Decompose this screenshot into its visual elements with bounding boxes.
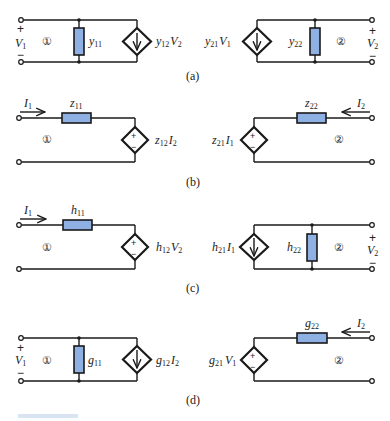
- h21I1-source-label: h21I1: [212, 240, 235, 255]
- z21I1-source-label: z21I1: [211, 133, 234, 148]
- h11-impedance-resistor: [63, 220, 92, 230]
- terminal-node: [17, 223, 22, 228]
- port2-minus-sign: −: [369, 256, 376, 270]
- z22-label: z22: [304, 96, 318, 111]
- y12V2-source-label: y12V2: [155, 34, 182, 49]
- terminal-node: [17, 160, 22, 165]
- panel-b-z-parameters: I1 z11 ① + − z12I2 I2 z22 + − z21I1: [17, 96, 375, 189]
- panel-c-port2-circuit: h21I1 h22 ② + V2 −: [212, 223, 378, 272]
- port2-number-label: ②: [334, 241, 344, 253]
- panel-c-h-parameters: I1 h11 ① + − h12V2 h21I1 h22 ②: [17, 203, 379, 295]
- source-plus-sign: +: [131, 131, 136, 141]
- source-plus-sign: +: [250, 131, 255, 141]
- panel-a-port2-circuit: y21V1 y22 ② + V2 −: [204, 18, 378, 65]
- port1-minus-sign: −: [17, 48, 24, 62]
- source-minus-sign: −: [250, 362, 255, 372]
- panel-d-g-parameters: + V1 − ① g11 g12I2 I2 g22: [15, 316, 374, 407]
- terminal-node: [370, 160, 375, 165]
- g22-impedance-resistor: [297, 333, 327, 343]
- two-port-equivalent-circuits: + V1 − ① y11 y12V2 y21V: [0, 0, 390, 421]
- z11-label: z11: [69, 96, 82, 111]
- I1-current-label: I1: [23, 203, 32, 218]
- g12I2-source-label: g12I2: [156, 353, 179, 368]
- terminal-node: [17, 267, 22, 272]
- port2-number-label: ②: [336, 35, 346, 47]
- port2-number-label: ②: [334, 354, 344, 366]
- g11-admittance-resistor: [74, 346, 84, 373]
- terminal-node: [370, 336, 375, 341]
- source-minus-sign: −: [250, 142, 255, 152]
- port1-number-label: ①: [42, 241, 52, 253]
- h22-label: h22: [287, 240, 301, 255]
- source-plus-sign: +: [250, 351, 255, 361]
- y11-admittance-resistor: [74, 28, 84, 55]
- I1-current-label: I1: [23, 96, 32, 111]
- I2-current-label: I2: [356, 96, 365, 111]
- I2-current-label: I2: [356, 316, 365, 331]
- g21V1-source-label: g21V1: [209, 353, 236, 368]
- panel-c-port1-circuit: I1 h11 ① + − h12V2: [17, 203, 183, 271]
- source-plus-sign: +: [131, 238, 136, 248]
- terminal-node: [370, 116, 375, 121]
- panel-a-port1-circuit: + V1 − ① y11 y12V2: [15, 18, 182, 65]
- port1-number-label: ①: [42, 133, 52, 145]
- terminal-node: [370, 379, 375, 384]
- panel-b-port2-circuit: I2 z22 + − z21I1 ②: [211, 96, 374, 164]
- z22-impedance-resistor: [297, 113, 326, 123]
- port2-minus-sign: −: [369, 49, 376, 63]
- panel-d-caption: (d): [186, 393, 200, 407]
- z11-impedance-resistor: [62, 113, 91, 123]
- terminal-node: [19, 336, 24, 341]
- source-minus-sign: −: [131, 142, 136, 152]
- g22-label: g22: [305, 316, 319, 331]
- y22-admittance-resistor: [310, 28, 320, 55]
- panel-b-port1-circuit: I1 z11 ① + − z12I2: [17, 96, 177, 164]
- port2-number-label: ②: [334, 133, 344, 145]
- panel-d-port2-circuit: I2 g22 + − g21V1 ②: [209, 316, 374, 383]
- port1-number-label: ①: [42, 354, 52, 366]
- port1-number-label: ①: [42, 35, 52, 47]
- terminal-node: [370, 223, 375, 228]
- source-minus-sign: −: [131, 249, 136, 259]
- panel-a-y-parameters: + V1 − ① y11 y12V2 y21V: [15, 18, 378, 83]
- g11-label: g11: [88, 353, 102, 368]
- port1-minus-sign: −: [17, 366, 24, 380]
- h22-admittance-resistor: [307, 234, 317, 261]
- z12I2-source-label: z12I2: [154, 133, 177, 148]
- figure-caption-cropped: [18, 414, 78, 418]
- terminal-node: [370, 18, 375, 23]
- panel-a-caption: (a): [186, 69, 199, 83]
- port1-plus-sign: +: [17, 22, 24, 36]
- h12V2-source-label: h12V2: [156, 240, 182, 255]
- panel-c-caption: (c): [186, 281, 199, 295]
- y11-label: y11: [88, 34, 102, 49]
- y22-label: y22: [288, 34, 302, 49]
- terminal-node: [17, 116, 22, 121]
- h11-label: h11: [71, 203, 85, 218]
- y21V1-source-label: y21V1: [204, 34, 231, 49]
- panel-d-port1-circuit: + V1 − ① g11 g12I2: [15, 336, 179, 384]
- panel-b-caption: (b): [186, 175, 200, 189]
